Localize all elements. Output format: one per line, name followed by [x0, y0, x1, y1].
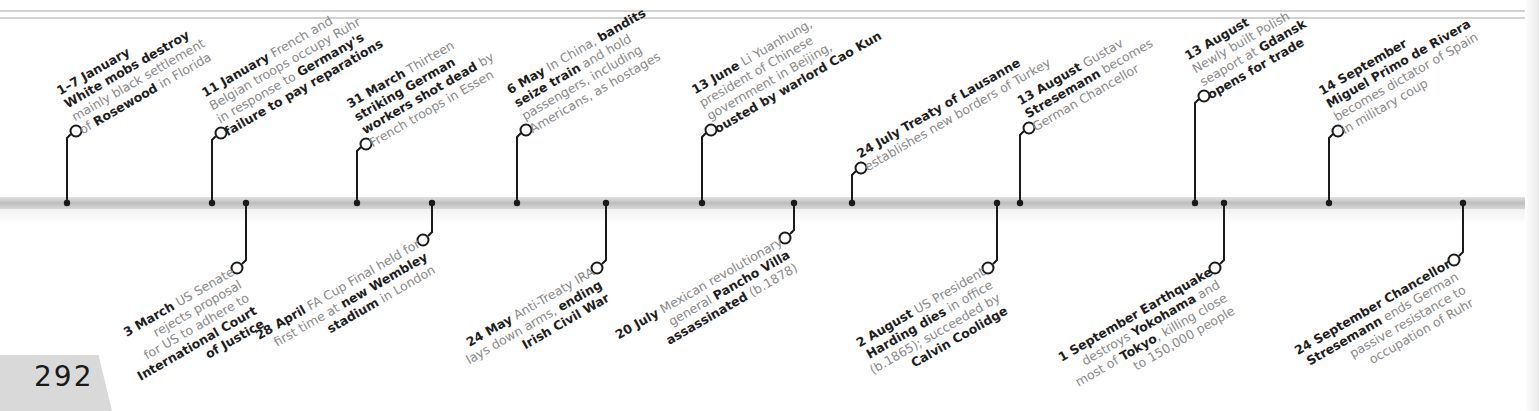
event-marker-above: [514, 125, 532, 207]
event-marker-above: [354, 139, 372, 207]
event-marker-above: [849, 163, 867, 207]
event-marker-below: [780, 200, 798, 244]
event-marker-below: [1449, 200, 1467, 266]
event-marker-above: [64, 126, 82, 207]
event-marker-above: [209, 128, 227, 207]
event-marker-below: [232, 200, 250, 274]
page-edge-shade: [1525, 0, 1539, 411]
event-marker-below: [592, 200, 610, 274]
event-marker-above: [1326, 126, 1344, 207]
event-marker-above: [699, 125, 717, 207]
event-marker-below: [983, 200, 1001, 274]
page-number: 292: [34, 360, 93, 393]
event-marker-below: [418, 200, 436, 246]
event-marker-below: [1210, 200, 1228, 274]
event-marker-above: [1017, 123, 1035, 207]
event-marker-above: [1192, 91, 1210, 207]
